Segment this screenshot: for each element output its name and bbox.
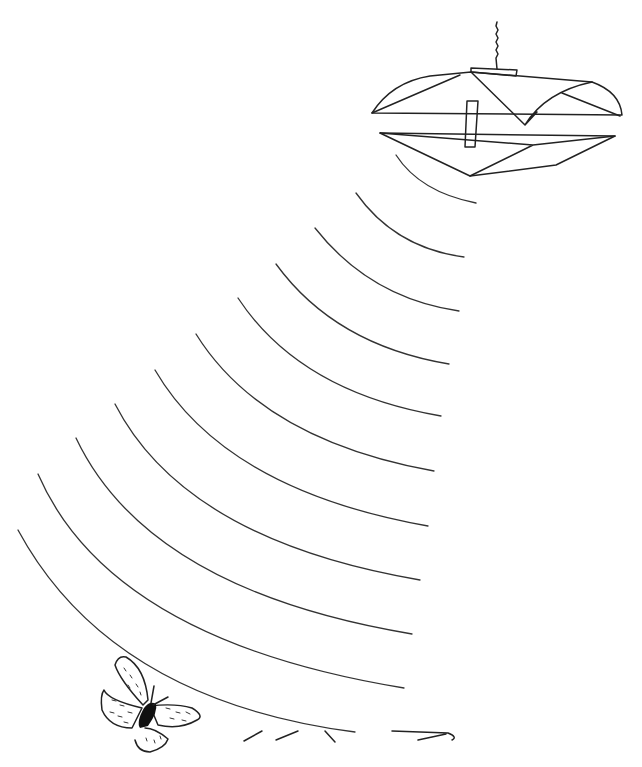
butterfly-antennae [151, 686, 168, 705]
trap-roof [372, 72, 622, 115]
trap-base-folds [380, 133, 615, 176]
hanging-wire [496, 22, 498, 69]
wave-9 [76, 438, 412, 634]
wave-5 [238, 298, 441, 416]
wave-4 [276, 264, 449, 364]
ground-stroke-4 [392, 731, 454, 740]
butterfly-forewing-left [115, 657, 148, 705]
scent-waves [18, 155, 476, 732]
wave-3 [315, 228, 459, 311]
illustration-canvas [0, 0, 642, 767]
butterfly-hindwing-left [101, 690, 142, 728]
wave-7 [155, 370, 428, 526]
wave-8 [115, 404, 420, 580]
butterfly-forewing-right [150, 705, 200, 727]
wave-2 [356, 193, 464, 257]
ground-stroke-1 [244, 731, 262, 741]
butterfly-body [139, 703, 157, 728]
butterfly-hindwing-right [135, 728, 168, 752]
butterfly [101, 657, 200, 752]
wave-11 [18, 530, 355, 732]
wave-10 [38, 474, 404, 688]
ground-stroke-3 [325, 731, 335, 742]
hanging-trap [372, 22, 622, 176]
wave-1 [396, 155, 476, 203]
wave-6 [196, 334, 434, 471]
trap-roof-folds [372, 72, 620, 125]
ground-stroke-2 [276, 731, 298, 740]
ground-strokes [244, 731, 454, 742]
